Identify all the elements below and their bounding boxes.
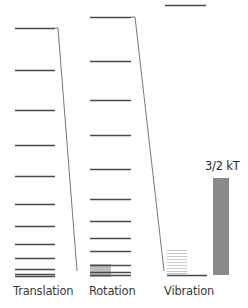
translation-levels: [15, 29, 55, 277]
vibration-levels: [165, 6, 207, 276]
translation-label: Translation: [13, 284, 73, 298]
vibration-label: Vibration: [164, 284, 214, 298]
energy-level-diagram: [0, 0, 248, 308]
connector-line: [131, 17, 164, 271]
rotation-label: Rotation: [89, 284, 136, 298]
energy-bar-label: 3/2 kT: [205, 159, 240, 173]
energy-bar: [213, 178, 229, 275]
connector-lines: [55, 17, 164, 271]
rotation-levels: [90, 18, 131, 278]
connector-line: [55, 28, 77, 271]
energy-bar-rect: [213, 178, 229, 275]
